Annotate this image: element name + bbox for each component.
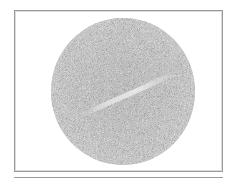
speckle-texture xyxy=(51,18,195,165)
bottom-rule xyxy=(14,177,223,178)
circular-specimen-image xyxy=(51,18,195,165)
